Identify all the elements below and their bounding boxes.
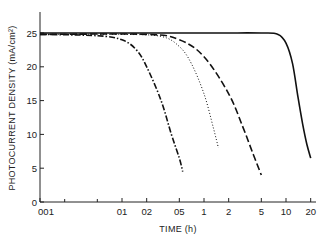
y-tick-label: 15 bbox=[26, 95, 37, 106]
y-tick-label: 0 bbox=[32, 197, 37, 208]
x-tick-label: 5 bbox=[259, 206, 264, 217]
data-series bbox=[40, 33, 311, 175]
photocurrent-chart: 0510152025 0010102051251020 TIME (h) PHO… bbox=[0, 0, 330, 243]
axes bbox=[40, 12, 316, 202]
x-axis-title: TIME (h) bbox=[159, 224, 196, 234]
x-tick-label: 10 bbox=[281, 206, 292, 217]
x-tick-label: 001 bbox=[38, 206, 54, 217]
series-dashdot-line bbox=[40, 34, 183, 171]
series-solid-line bbox=[40, 33, 311, 158]
y-axis-title: PHOTOCURRENT DENSITY (mA/cm²) bbox=[7, 25, 17, 190]
x-tick-label: 20 bbox=[305, 206, 316, 217]
series-dotted-line bbox=[40, 34, 218, 148]
x-tick-label: 05 bbox=[174, 206, 185, 217]
y-tick-label: 5 bbox=[32, 163, 37, 174]
x-ticks: 0010102051251020 bbox=[38, 198, 316, 217]
y-tick-label: 25 bbox=[26, 28, 37, 39]
y-ticks: 0510152025 bbox=[26, 28, 44, 208]
y-tick-label: 20 bbox=[26, 61, 37, 72]
series-dashed-line bbox=[40, 34, 261, 175]
x-tick-label: 01 bbox=[117, 206, 128, 217]
x-tick-label: 02 bbox=[141, 206, 152, 217]
y-tick-label: 10 bbox=[26, 129, 37, 140]
x-tick-label: 2 bbox=[226, 206, 231, 217]
x-tick-label: 1 bbox=[201, 206, 206, 217]
